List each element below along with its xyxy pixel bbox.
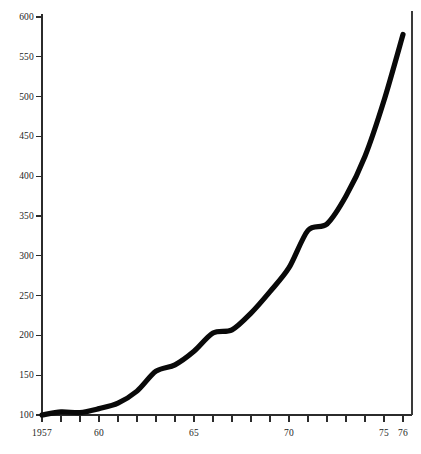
x-tick-label: 1957 xyxy=(32,428,52,438)
data-series-group xyxy=(42,35,403,415)
x-tick-label: 76 xyxy=(398,428,408,438)
y-tick-label: 450 xyxy=(4,131,34,141)
x-tick-label: 70 xyxy=(284,428,294,438)
x-tick-label: 60 xyxy=(94,428,104,438)
chart-container: 100150200250300350400450500550600 195760… xyxy=(0,0,421,454)
y-tick-label: 500 xyxy=(4,92,34,102)
y-tick-label: 600 xyxy=(4,12,34,22)
chart-plot-area xyxy=(0,0,421,454)
y-tick-label: 400 xyxy=(4,171,34,181)
x-tick-label: 65 xyxy=(189,428,199,438)
axes-group xyxy=(42,11,412,415)
y-tick-label: 300 xyxy=(4,251,34,261)
y-tick-label: 200 xyxy=(4,330,34,340)
y-tick-label: 100 xyxy=(4,410,34,420)
y-axis-tick-marks xyxy=(36,17,42,415)
x-axis-tick-marks xyxy=(42,415,403,422)
y-tick-label: 150 xyxy=(4,370,34,380)
x-tick-label: 75 xyxy=(379,428,389,438)
y-tick-label: 350 xyxy=(4,211,34,221)
y-tick-label: 550 xyxy=(4,52,34,62)
line-series-index xyxy=(42,35,403,415)
y-tick-label: 250 xyxy=(4,291,34,301)
